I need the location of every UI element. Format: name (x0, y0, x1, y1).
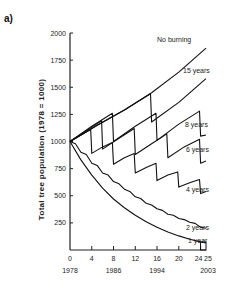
series-label-2-years: 2 years (186, 224, 209, 232)
y-axis-title: Total tree population (1978 = 1000) (37, 79, 46, 220)
series-label-6-years: 6 years (186, 146, 209, 154)
y-tick-label: 250 (54, 219, 66, 226)
series-label-4-years: 4 years (186, 186, 209, 194)
x-tick-label: 12 (131, 255, 139, 262)
x-tick-label: 20 (175, 255, 183, 262)
y-tick-label: 1250 (50, 111, 66, 118)
y-tick-label: 2000 (50, 30, 66, 37)
y-tick-label: 1750 (50, 57, 66, 64)
x-year-label: 2003 (200, 267, 216, 274)
y-tick-label: 1000 (50, 138, 66, 145)
x-tick-label: 0 (68, 255, 72, 262)
series-label-15-years: 15 years (183, 67, 210, 75)
x-year-label: 1986 (106, 267, 122, 274)
x-year-label: 1978 (62, 267, 78, 274)
series-label-8-years: 8 years (185, 121, 208, 129)
x-tick-label: 4 (90, 255, 94, 262)
x-tick-label: 8 (112, 255, 116, 262)
y-tick-label: 1500 (50, 84, 66, 91)
x-tick-label: 16 (153, 255, 161, 262)
series-labels: No burning15 years8 years6 years4 years2… (157, 36, 210, 245)
x-tick-label: 25 (204, 255, 212, 262)
y-tick-label: 750 (54, 165, 66, 172)
series-label-no-burning: No burning (157, 36, 191, 44)
tree-population-chart: a) 2505007501000125015001750200004812162… (0, 0, 242, 288)
x-year-label: 1994 (149, 267, 165, 274)
y-tick-label: 500 (54, 192, 66, 199)
x-tick-label: 24 (195, 255, 203, 262)
panel-label: a) (4, 13, 13, 24)
series-label-1-year: 1 year (188, 237, 208, 245)
